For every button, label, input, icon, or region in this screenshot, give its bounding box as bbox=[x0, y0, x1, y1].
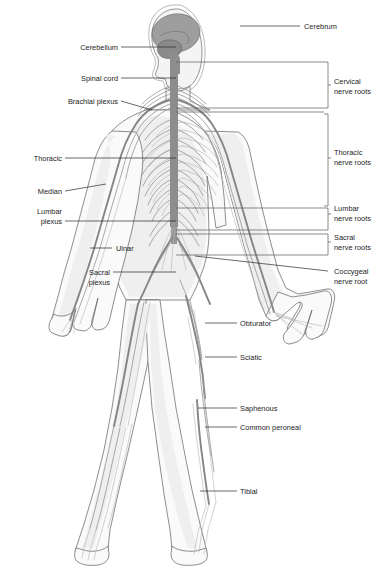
spinal-cord-lower bbox=[171, 222, 177, 244]
label-spinal-cord: Spinal cord bbox=[81, 74, 118, 83]
label-tibial: Tibial bbox=[240, 487, 258, 496]
label-lumbar-roots-line2: nerve roots bbox=[334, 214, 371, 223]
nervous-system-diagram: Cerebellum Spinal cord Brachial plexus T… bbox=[0, 0, 389, 582]
label-cervical-line1: Cervical bbox=[334, 77, 361, 86]
label-median: Median bbox=[38, 187, 62, 196]
label-ulnar: Ulnar bbox=[116, 244, 134, 253]
right-hand bbox=[266, 291, 332, 344]
brainstem bbox=[170, 52, 180, 74]
label-coccygeal-line2: nerve root bbox=[334, 277, 367, 286]
label-sacral-roots-line1: Sacral bbox=[334, 233, 355, 242]
label-cerebrum: Cerebrum bbox=[304, 22, 337, 31]
bracket-thoracic bbox=[324, 114, 331, 206]
left-leg-shading bbox=[82, 304, 151, 548]
anatomy-figure: Cerebellum Spinal cord Brachial plexus T… bbox=[0, 0, 389, 582]
label-sacral-roots-line2: nerve roots bbox=[334, 243, 371, 252]
label-saphenous: Saphenous bbox=[240, 404, 278, 413]
label-thoracic-roots-line1: Thoracic bbox=[334, 148, 363, 157]
label-cervical-line2: nerve roots bbox=[334, 87, 371, 96]
label-obturator: Obturator bbox=[240, 319, 272, 328]
label-lumbar-plexus-line1: Lumbar bbox=[37, 207, 63, 216]
sciatic-nerve-right bbox=[186, 296, 205, 398]
label-brachial-plexus: Brachial plexus bbox=[68, 97, 118, 106]
label-sciatic: Sciatic bbox=[240, 353, 262, 362]
nerve-root-group-labels: Cervical nerve roots Thoracic nerve root… bbox=[334, 77, 371, 286]
label-sacral-plexus-line2: plexus bbox=[89, 278, 111, 287]
label-lumbar-roots-line1: Lumbar bbox=[334, 204, 360, 213]
label-thoracic-roots-line2: nerve roots bbox=[334, 158, 371, 167]
label-cerebellum: Cerebellum bbox=[80, 43, 118, 52]
label-common-peroneal: Common peroneal bbox=[240, 423, 301, 432]
label-lumbar-plexus-line2: plexus bbox=[41, 217, 63, 226]
label-sacral-plexus-line1: Sacral bbox=[89, 268, 110, 277]
label-thoracic: Thoracic bbox=[34, 154, 63, 163]
label-coccygeal-line1: Coccygeal bbox=[334, 267, 369, 276]
spinal-cord bbox=[170, 72, 178, 227]
